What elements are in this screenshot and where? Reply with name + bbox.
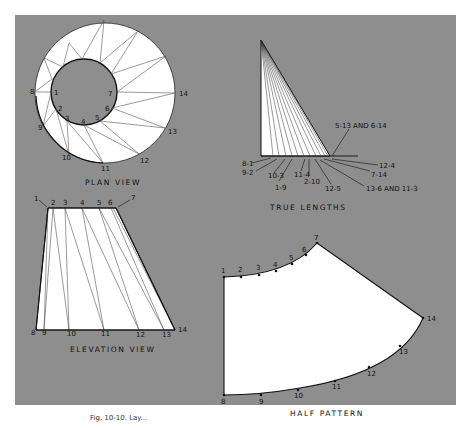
plan-view-title: PLAN VIEW [85, 178, 141, 187]
plan-label-1: 1 [54, 89, 58, 97]
elev-label-9: 9 [42, 329, 46, 337]
elev-label-8: 8 [31, 329, 35, 337]
half-pattern-title: HALF PATTERN [290, 409, 364, 418]
tl-label-2-10: 2-10 [304, 178, 320, 186]
plan-label-5: 5 [95, 114, 99, 122]
elev-label-6: 6 [108, 199, 113, 207]
pattern-label-12: 12 [367, 370, 376, 378]
elevation-view: 1 2 3 4 5 6 7 8 9 10 11 12 13 14 ELEVATI… [31, 194, 187, 354]
plan-label-13: 13 [168, 128, 177, 136]
pattern-label-4: 4 [273, 261, 278, 269]
pattern-label-8: 8 [221, 398, 225, 406]
elev-label-5: 5 [97, 199, 101, 207]
plan-label-6: 6 [105, 105, 110, 113]
tl-label-8-1: 8-1 [242, 160, 253, 168]
tl-label-10-3: 10-3 [268, 172, 284, 180]
plan-label-14: 14 [179, 90, 188, 98]
plan-label-10: 10 [62, 154, 71, 162]
transition-development-figure: 8 1 2 3 4 5 6 7 9 10 11 12 13 14 PLAN VI… [0, 0, 468, 428]
plan-label-2: 2 [58, 105, 62, 113]
true-lengths-diagram: 8-1 9-2 10-3 1-9 11-4 2-10 12-5 5-13 AND… [242, 40, 418, 212]
elev-label-10: 10 [67, 330, 76, 338]
pattern-label-11: 11 [332, 383, 341, 391]
pattern-label-2: 2 [238, 266, 242, 274]
plan-label-4: 4 [81, 118, 86, 126]
elev-label-12: 12 [136, 331, 145, 339]
half-pattern-shape [224, 243, 423, 395]
elev-label-1: 1 [34, 195, 38, 203]
tl-label-1-9: 1-9 [275, 184, 286, 192]
pattern-label-5: 5 [289, 254, 293, 262]
pattern-label-7: 7 [314, 234, 318, 242]
pattern-label-10: 10 [294, 392, 303, 400]
pattern-label-6: 6 [302, 246, 307, 254]
arrow-7 [118, 200, 130, 207]
tl-label-7-14: 7-14 [371, 171, 387, 179]
pattern-label-1: 1 [221, 267, 225, 275]
plan-label-7: 7 [108, 90, 112, 98]
tl-label-5-13-and-6-14: 5-13 AND 6-14 [335, 122, 387, 130]
elevation-view-title: ELEVATION VIEW [70, 345, 155, 354]
pattern-label-9: 9 [259, 398, 263, 406]
plan-label-8: 8 [30, 88, 34, 96]
tl-label-13-6-and-11-3: 13-6 AND 11-3 [366, 185, 418, 193]
elev-label-2: 2 [51, 199, 55, 207]
arrow-1 [39, 200, 47, 207]
elev-label-14: 14 [178, 326, 187, 334]
elev-label-11: 11 [101, 330, 110, 338]
plan-view: 8 1 2 3 4 5 6 7 9 10 11 12 13 14 PLAN VI… [30, 20, 188, 187]
tl-label-12-5: 12-5 [325, 185, 341, 193]
pattern-label-3: 3 [256, 264, 260, 272]
true-lengths-title: TRUE LENGTHS [269, 203, 347, 212]
plan-label-9: 9 [38, 124, 42, 132]
pattern-label-13: 13 [399, 348, 408, 356]
elev-label-3: 3 [63, 199, 67, 207]
elev-label-7: 7 [131, 194, 135, 202]
tl-label-12-4: 12-4 [379, 162, 395, 170]
plan-label-12: 12 [140, 157, 149, 165]
figure-caption: Fig. 10-10. Lay... [90, 414, 147, 422]
plan-label-11: 11 [101, 165, 110, 173]
half-pattern: 1 2 3 4 5 6 7 8 9 10 11 12 13 14 HALF PA… [221, 234, 436, 418]
tl-label-9-2: 9-2 [242, 169, 253, 177]
elev-label-4: 4 [80, 199, 85, 207]
pattern-label-14: 14 [427, 315, 436, 323]
elev-label-13: 13 [162, 331, 171, 339]
plan-label-3: 3 [65, 115, 69, 123]
